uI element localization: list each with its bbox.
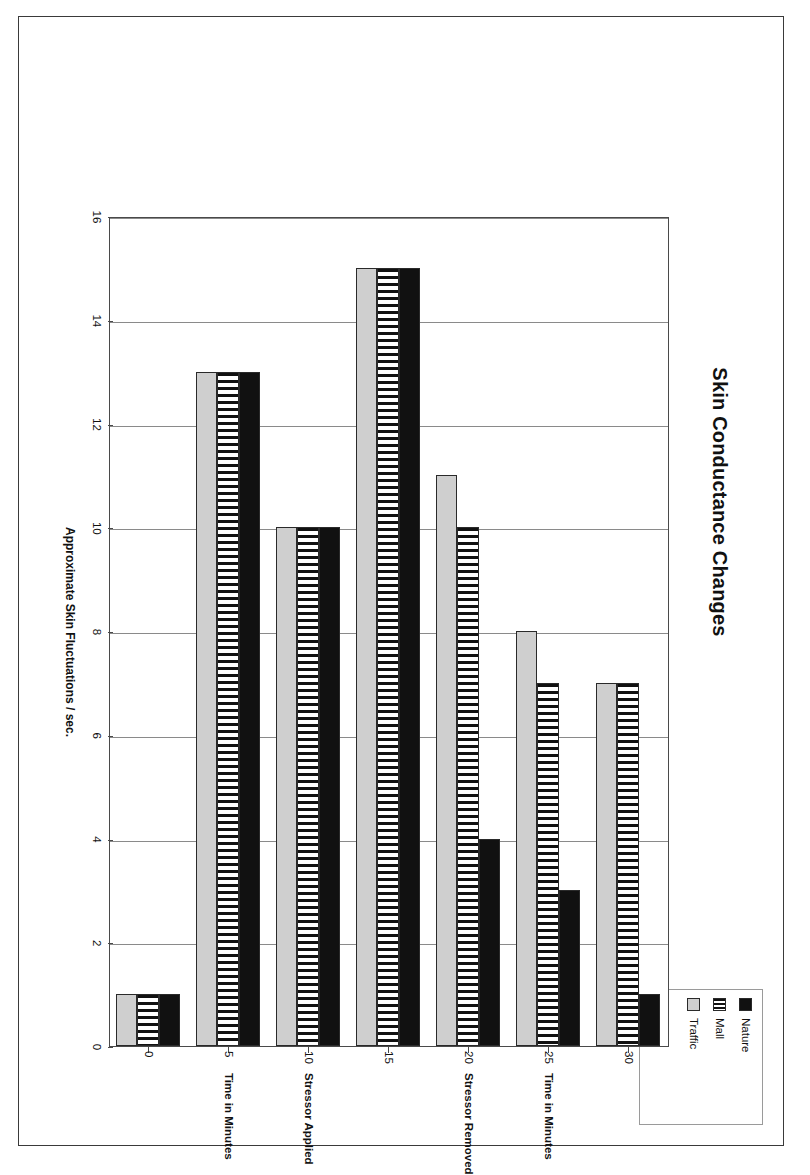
value-tick-label-4: 4: [91, 836, 103, 842]
legend-label-traffic: Traffic: [688, 1018, 700, 1049]
bar-nature-25: [559, 890, 580, 1046]
bar-nature-30: [639, 994, 660, 1046]
legend-swatch-mall-icon: [713, 998, 726, 1011]
chart-title: Skin Conductance Changes: [708, 27, 731, 977]
value-tick-mark-6: [108, 736, 113, 737]
value-tick-label-16: 16: [91, 211, 103, 224]
legend-label-mall: Mall: [714, 1018, 726, 1039]
bar-nature-15: [399, 268, 420, 1046]
bar-mall-25: [537, 683, 558, 1046]
bar-mall-15: [377, 268, 398, 1046]
value-tick-mark-2: [108, 943, 113, 944]
value-axis-title: Approximate Skin Fluctuations / sec.: [63, 217, 77, 1047]
figure-border: Skin Conductance Changes Nature Mall Tra…: [18, 16, 784, 1146]
bar-mall-5: [217, 372, 238, 1046]
bar-traffic-15: [356, 268, 377, 1046]
category-label-15: 15: [383, 1051, 395, 1064]
category-annotation-10: Stressor Applied: [303, 1073, 315, 1165]
category-label-5: 5: [223, 1051, 235, 1057]
value-tick-mark-0: [108, 1047, 113, 1048]
value-tick-mark-8: [108, 632, 113, 633]
value-tick-mark-12: [108, 425, 113, 426]
value-axis-ticks: 0246810121416: [77, 217, 107, 1047]
category-label-0: 0: [143, 1051, 155, 1057]
value-tick-label-12: 12: [91, 418, 103, 431]
value-tick-label-8: 8: [91, 629, 103, 635]
category-annotation-5: Time in Minutes: [223, 1073, 235, 1160]
value-tick-mark-4: [108, 840, 113, 841]
category-label-30: 30: [623, 1051, 635, 1064]
value-tick-mark-16: [108, 217, 113, 218]
bar-nature-5: [239, 372, 260, 1046]
bar-traffic-5: [196, 372, 217, 1046]
category-annotation-20: Stressor Removed: [463, 1073, 475, 1175]
value-tick-label-14: 14: [91, 314, 103, 327]
legend-label-nature: Nature: [740, 1018, 752, 1053]
plot-area: [109, 217, 669, 1047]
category-annotation-25: Time in Minutes: [543, 1073, 555, 1160]
bar-group-25: [516, 218, 580, 1046]
bar-traffic-0: [116, 994, 137, 1046]
value-tick-label-6: 6: [91, 733, 103, 739]
bar-traffic-20: [436, 475, 457, 1046]
category-axis: 05Time in Minutes10Stressor Applied1520S…: [109, 1049, 669, 1133]
bar-group-0: [116, 218, 180, 1046]
value-tick-label-0: 0: [91, 1044, 103, 1050]
bar-mall-10: [297, 527, 318, 1046]
legend-swatch-nature-icon: [739, 998, 752, 1011]
value-tick-mark-10: [108, 528, 113, 529]
bar-traffic-30: [596, 683, 617, 1046]
value-tick-label-10: 10: [91, 522, 103, 535]
bar-mall-0: [137, 994, 158, 1046]
value-tick-label-2: 2: [91, 940, 103, 946]
bar-mall-30: [617, 683, 638, 1046]
bar-group-5: [196, 218, 260, 1046]
legend-swatch-traffic-icon: [687, 998, 700, 1011]
bar-group-10: [276, 218, 340, 1046]
bar-nature-20: [479, 839, 500, 1047]
bar-mall-20: [457, 527, 478, 1046]
bar-nature-0: [159, 994, 180, 1046]
bar-traffic-25: [516, 631, 537, 1046]
category-label-25: 25: [543, 1051, 555, 1064]
legend-item-mall: Mall: [713, 998, 726, 1116]
category-label-20: 20: [463, 1051, 475, 1064]
bar-traffic-10: [276, 527, 297, 1046]
rotated-chart-canvas: Skin Conductance Changes Nature Mall Tra…: [29, 27, 773, 1135]
legend-item-nature: Nature: [739, 998, 752, 1116]
bar-group-15: [356, 218, 420, 1046]
bar-group-30: [596, 218, 660, 1046]
bar-nature-10: [319, 527, 340, 1046]
legend-item-traffic: Traffic: [687, 998, 700, 1116]
bar-group-20: [436, 218, 500, 1046]
category-label-10: 10: [303, 1051, 315, 1064]
value-tick-mark-14: [108, 321, 113, 322]
